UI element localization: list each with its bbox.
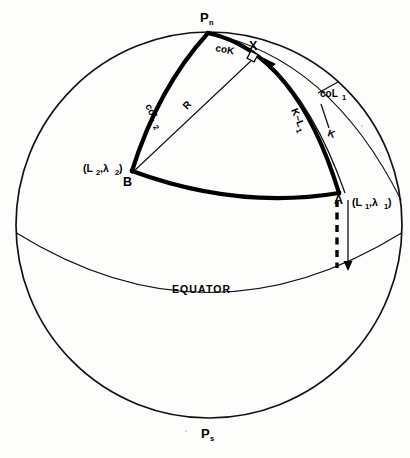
side-label-co-l2-group: coL 2: [141, 102, 166, 132]
vertex-label-a: A: [334, 193, 343, 207]
vertex-b-coord-open: (L: [83, 162, 93, 174]
south-pole-label-group: P s: [201, 426, 214, 443]
north-pole-label-group: P n: [200, 10, 214, 27]
north-pole-subscript: n: [209, 18, 214, 27]
side-label-k-minus-l1-subscript: 1: [294, 127, 304, 135]
paper-speck: [361, 125, 363, 127]
side-label-co-l2-subscript: 2: [151, 124, 161, 132]
south-pole-label: P: [201, 426, 210, 441]
vertex-label-b: B: [123, 175, 132, 189]
sphere-outline: [16, 32, 402, 418]
side-label-co-l1: coL: [320, 88, 338, 99]
vertex-label-x: X: [249, 39, 258, 53]
side-label-k: K: [326, 127, 337, 140]
side-label-co-l1-group: coL 1: [320, 88, 347, 102]
arrow-down-to-equator-head: [344, 261, 353, 271]
baseline-arc-b-to-a: [132, 171, 339, 198]
vertex-a-coord-open: (L: [352, 196, 362, 208]
south-pole-subscript: s: [210, 434, 214, 443]
side-label-r: R: [180, 98, 194, 111]
side-label-co-l1-subscript: 1: [342, 93, 347, 102]
spherical-diagram-figure: P n P s EQUATOR coK X coL 1 K K~L 1 coL …: [0, 0, 410, 458]
vertex-b-dot: [130, 169, 135, 174]
equator-label: EQUATOR: [172, 283, 231, 295]
side-label-co-k: coK: [215, 42, 236, 57]
vertex-b-coord-close: ): [119, 162, 123, 174]
vertex-b-coord-mid: ,λ: [100, 162, 109, 174]
vertex-a-coord-mid: ,λ: [369, 196, 378, 208]
co-l2-arc: [132, 33, 208, 171]
vertex-a-coord-close: ): [388, 196, 392, 208]
sphere-figure-canvas: P n P s EQUATOR coK X coL 1 K K~L 1 coL …: [0, 0, 410, 458]
vertex-a-coord-group: (L 1 ,λ 1 ): [352, 196, 392, 211]
vertex-b-coord-group: (L 2 ,λ 2 ): [83, 162, 123, 177]
k-leader-line: [321, 104, 329, 128]
paper-speck: [185, 430, 187, 432]
north-pole-vertex-dot: [206, 31, 210, 35]
north-pole-label: P: [200, 10, 209, 25]
